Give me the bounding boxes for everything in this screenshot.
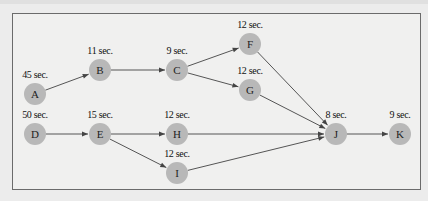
edge-f-j [258,52,328,125]
task-time-label: 15 sec. [87,109,113,120]
edge-a-b [45,74,88,90]
node-label: G [246,84,254,96]
edge-i-j [188,137,325,171]
node-label: H [173,128,181,140]
nodes: A45 sec.B11 sec.C9 sec.F12 sec.G12 sec.D… [22,19,411,184]
node-label: A [31,88,39,100]
node-d: D50 sec. [22,109,48,145]
node-g: G12 sec. [237,65,263,101]
edge-c-g [188,73,239,87]
task-time-label: 12 sec. [164,109,190,120]
node-label: J [334,128,339,140]
node-a: A45 sec. [22,69,48,105]
node-label: K [396,128,404,140]
node-label: C [173,64,180,76]
node-label: F [247,38,253,50]
edge-g-j [260,95,326,129]
edge-e-i [110,139,167,168]
node-e: E15 sec. [87,109,113,145]
task-time-label: 9 sec. [390,109,411,120]
node-h: H12 sec. [164,109,190,145]
node-j: J8 sec. [325,109,347,145]
node-k: K9 sec. [389,109,411,145]
task-time-label: 12 sec. [237,65,263,76]
task-time-label: 8 sec. [326,109,347,120]
task-time-label: 11 sec. [87,45,112,56]
node-b: B11 sec. [87,45,112,81]
precedence-diagram: A45 sec.B11 sec.C9 sec.F12 sec.G12 sec.D… [0,0,428,201]
edge-c-f [187,48,238,66]
node-f: F12 sec. [237,19,263,55]
task-time-label: 12 sec. [237,19,263,30]
node-label: B [96,64,103,76]
task-time-label: 50 sec. [22,109,48,120]
node-c: C9 sec. [166,45,188,81]
node-i: I12 sec. [164,148,190,184]
node-label: E [97,128,104,140]
task-time-label: 12 sec. [164,148,190,159]
node-label: D [31,128,39,140]
node-label: I [175,167,179,179]
task-time-label: 45 sec. [22,69,48,80]
task-time-label: 9 sec. [167,45,188,56]
